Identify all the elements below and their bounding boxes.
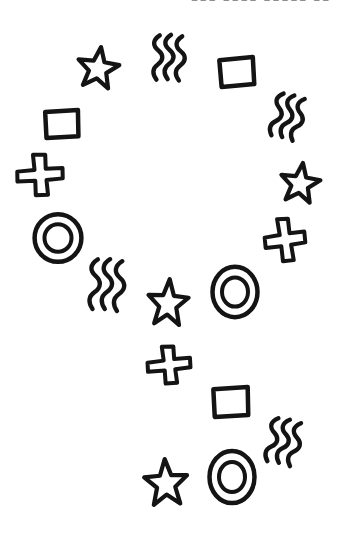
shape-plus: [146, 344, 193, 386]
shape-squiggle: [268, 92, 307, 142]
shape-star: [75, 44, 121, 89]
shape-star: [143, 458, 188, 505]
shape-double-circle: [213, 267, 258, 317]
shape-double-circle: [35, 214, 82, 262]
shape-square: [45, 110, 79, 138]
shape-plus: [262, 216, 308, 264]
shape-double-circle: [210, 451, 255, 503]
shape-square: [219, 57, 254, 87]
shape-squiggle: [89, 259, 125, 312]
shape-plus: [16, 153, 65, 197]
worksheet-page: ▪▪▪ ▪▪▪▪ ▪▪▪▪▪ ▪▪: [0, 0, 337, 538]
shape-squiggle: [153, 35, 184, 81]
shape-square: [213, 387, 248, 417]
shape-star: [147, 278, 190, 326]
shape-squiggle: [264, 417, 304, 468]
shape-star: [278, 160, 322, 203]
shapes-canvas: [0, 0, 337, 538]
